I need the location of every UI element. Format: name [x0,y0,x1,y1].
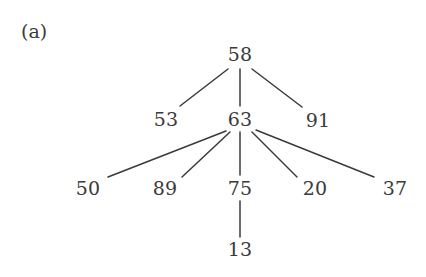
tree-edge-layer [0,0,426,277]
tree-node-20: 20 [300,178,331,199]
tree-node-89: 89 [150,178,181,199]
tree-node-75: 75 [225,178,256,199]
tree-edge [252,132,297,177]
tree-node-13: 13 [225,239,256,260]
tree-node-50: 50 [73,178,104,199]
tree-edge [180,69,228,106]
tree-diagram-figure: (a) 58536391508975203713 [0,0,426,277]
tree-edge [252,69,302,107]
tree-node-63: 63 [225,109,256,130]
tree-node-37: 37 [380,178,411,199]
tree-node-91: 91 [303,110,334,131]
tree-edge [108,131,226,177]
tree-node-58: 58 [225,44,256,65]
tree-node-53: 53 [151,109,182,130]
